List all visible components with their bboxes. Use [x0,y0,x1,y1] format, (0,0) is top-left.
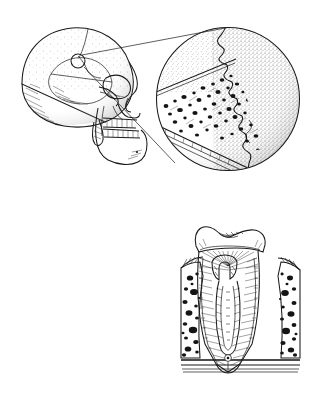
magnifier-rim-shading [157,28,300,171]
apical-vessel [227,357,230,360]
mental-foramen [136,151,138,153]
anatomy-figure-svg [0,0,316,405]
cranial-vault [22,28,134,128]
illustration-sheet [0,0,316,405]
